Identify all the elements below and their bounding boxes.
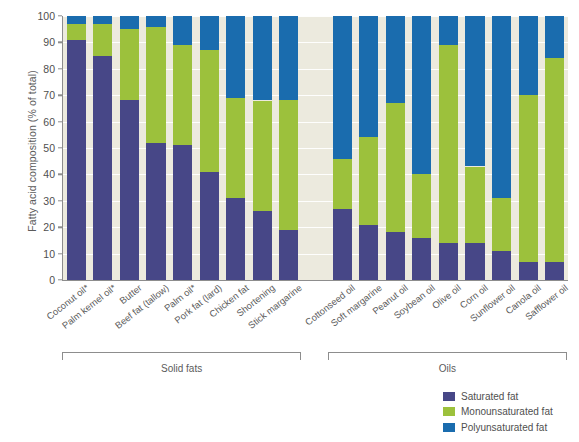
bar-segment-polyunsaturated[interactable] (465, 16, 484, 166)
bar[interactable] (120, 16, 139, 280)
bar[interactable] (226, 16, 245, 280)
bar-segment-monounsaturated[interactable] (146, 27, 165, 143)
bar-segment-saturated[interactable] (120, 100, 139, 280)
bar-segment-saturated[interactable] (67, 40, 86, 280)
bar-segment-monounsaturated[interactable] (359, 137, 378, 224)
bar-segment-monounsaturated[interactable] (545, 58, 564, 261)
bar-segment-saturated[interactable] (279, 230, 298, 280)
bar-segment-polyunsaturated[interactable] (279, 16, 298, 100)
bar-series-container (63, 16, 568, 280)
bar[interactable] (93, 16, 112, 280)
bar-segment-saturated[interactable] (226, 198, 245, 280)
bar-segment-polyunsaturated[interactable] (146, 16, 165, 27)
group-label: Oils (328, 363, 568, 374)
bar-segment-saturated[interactable] (253, 211, 272, 280)
bar-segment-saturated[interactable] (439, 243, 458, 280)
bar-segment-monounsaturated[interactable] (173, 45, 192, 145)
bar[interactable] (439, 16, 458, 280)
bar-segment-saturated[interactable] (519, 262, 538, 280)
bar-segment-monounsaturated[interactable] (439, 45, 458, 243)
bar[interactable] (545, 16, 564, 280)
x-axis-tick-labels: Coconut oil*Palm kernel oil*ButterBeef f… (0, 282, 579, 340)
fatty-acid-composition-chart: Fatty acid composition (% of total) 0102… (0, 0, 579, 442)
bar-segment-saturated[interactable] (200, 172, 219, 280)
bar-segment-saturated[interactable] (465, 243, 484, 280)
bar-segment-monounsaturated[interactable] (279, 100, 298, 229)
bar-segment-polyunsaturated[interactable] (226, 16, 245, 98)
bar-segment-monounsaturated[interactable] (519, 95, 538, 261)
bar[interactable] (359, 16, 378, 280)
y-axis-tick-labels: 0102030405060708090100 (0, 16, 62, 280)
bar-segment-monounsaturated[interactable] (67, 24, 86, 40)
bar-segment-monounsaturated[interactable] (253, 101, 272, 212)
y-axis-tick-label: 80 (43, 63, 55, 75)
bar[interactable] (386, 16, 405, 280)
y-axis-tick-label: 20 (43, 221, 55, 233)
bar[interactable] (412, 16, 431, 280)
bar-segment-polyunsaturated[interactable] (386, 16, 405, 103)
bar-segment-polyunsaturated[interactable] (519, 16, 538, 95)
bar-segment-polyunsaturated[interactable] (67, 16, 86, 24)
bar[interactable] (333, 16, 352, 280)
bar-segment-saturated[interactable] (333, 209, 352, 280)
bar-segment-polyunsaturated[interactable] (200, 16, 219, 50)
bar-segment-monounsaturated[interactable] (412, 174, 431, 237)
group-label: Solid fats (62, 363, 302, 374)
bar-segment-polyunsaturated[interactable] (253, 16, 272, 100)
bar-segment-saturated[interactable] (359, 225, 378, 280)
group-bracket: Solid fats (62, 352, 302, 378)
bar-segment-polyunsaturated[interactable] (359, 16, 378, 137)
bar[interactable] (173, 16, 192, 280)
legend-item[interactable]: Saturated fat (443, 390, 553, 402)
bar-segment-saturated[interactable] (146, 143, 165, 280)
bar-segment-monounsaturated[interactable] (200, 50, 219, 171)
legend-item[interactable]: Monounsaturated fat (443, 406, 553, 418)
legend-label: Polyunsaturated fat (461, 422, 547, 433)
y-axis-tick-label: 40 (43, 168, 55, 180)
y-axis-tick-label: 90 (43, 36, 55, 48)
bar-segment-polyunsaturated[interactable] (545, 16, 564, 58)
bar-segment-polyunsaturated[interactable] (412, 16, 431, 174)
bar-segment-monounsaturated[interactable] (120, 29, 139, 100)
y-axis-tick-label: 30 (43, 195, 55, 207)
bar-segment-monounsaturated[interactable] (492, 198, 511, 251)
bar[interactable] (279, 16, 298, 280)
bar-segment-saturated[interactable] (93, 56, 112, 280)
legend-swatch-monounsaturated (443, 407, 455, 416)
bar-segment-polyunsaturated[interactable] (333, 16, 352, 159)
bar-segment-polyunsaturated[interactable] (439, 16, 458, 45)
bar-segment-polyunsaturated[interactable] (93, 16, 112, 24)
bar-segment-monounsaturated[interactable] (226, 98, 245, 198)
bar[interactable] (519, 16, 538, 280)
bar[interactable] (146, 16, 165, 280)
legend: Saturated fatMonounsaturated fatPolyunsa… (443, 390, 553, 437)
bar-segment-polyunsaturated[interactable] (120, 16, 139, 29)
bar[interactable] (67, 16, 86, 280)
legend-label: Saturated fat (461, 391, 518, 402)
bar-segment-saturated[interactable] (173, 145, 192, 280)
bar[interactable] (492, 16, 511, 280)
bar-segment-monounsaturated[interactable] (333, 159, 352, 209)
y-axis-tick-label: 60 (43, 116, 55, 128)
bar-segment-monounsaturated[interactable] (386, 103, 405, 232)
legend-item[interactable]: Polyunsaturated fat (443, 421, 553, 433)
x-axis-tick-label: Olive oil (430, 282, 463, 311)
y-axis-tick-label: 10 (43, 248, 55, 260)
bracket-line (328, 352, 568, 360)
bracket-line (62, 352, 302, 360)
bar-segment-saturated[interactable] (545, 262, 564, 280)
bar-segment-monounsaturated[interactable] (93, 24, 112, 56)
bar-segment-polyunsaturated[interactable] (492, 16, 511, 198)
plot-area (62, 16, 568, 281)
bar-segment-monounsaturated[interactable] (465, 167, 484, 244)
bar-segment-saturated[interactable] (386, 232, 405, 280)
bar-segment-saturated[interactable] (492, 251, 511, 280)
bar-segment-saturated[interactable] (412, 238, 431, 280)
bar-segment-polyunsaturated[interactable] (173, 16, 192, 45)
legend-swatch-polyunsaturated (443, 423, 455, 432)
bar[interactable] (253, 16, 272, 280)
group-bracket: Oils (328, 352, 568, 378)
y-axis-tick-label: 100 (37, 10, 55, 22)
bar[interactable] (465, 16, 484, 280)
bar[interactable] (200, 16, 219, 280)
